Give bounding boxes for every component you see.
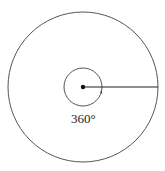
full-angle-diagram: 360°: [0, 0, 165, 171]
center-point: [81, 85, 85, 89]
angle-label: 360°: [71, 111, 96, 126]
